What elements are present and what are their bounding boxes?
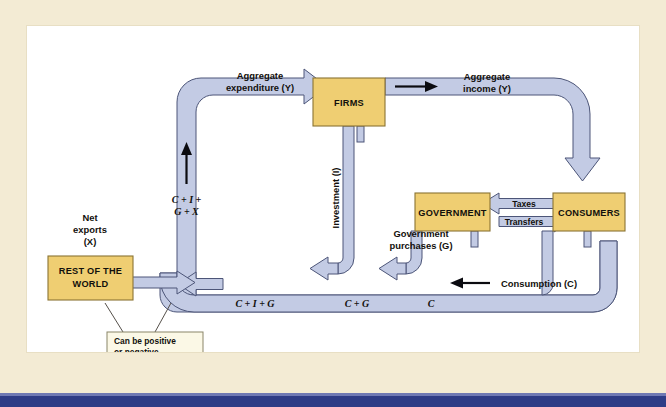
aggregate-income-label-line1: Aggregate <box>464 71 510 82</box>
callout-leader-right <box>155 303 171 332</box>
aggregate-expenditure-label-line1: Aggregate <box>237 70 283 81</box>
c-i-g-x-label-line2: G + X <box>174 206 199 217</box>
government-purchases-label-line2: purchases (G) <box>389 240 452 251</box>
rest-of-world-label-line1: REST OF THE <box>59 266 123 276</box>
firms-label: FIRMS <box>334 98 364 108</box>
government-purchases-arrowhead <box>379 257 406 280</box>
figure-page: FIRMS GOVERNMENT CONSUMERS REST OF THE W… <box>0 0 666 407</box>
firms-stem <box>357 126 364 142</box>
aggregate-income-label-line2: income (Y) <box>463 83 511 94</box>
rest-of-world-label-line2: WORLD <box>73 279 109 289</box>
investment-label: Investment (I) <box>330 168 341 229</box>
node-rest-of-world[interactable]: REST OF THE WORLD <box>48 256 133 300</box>
node-government[interactable]: GOVERNMENT <box>415 193 490 231</box>
bottom-accent-bar <box>0 396 666 407</box>
consumers-label: CONSUMERS <box>558 208 620 218</box>
government-purchases-label-line1: Government <box>393 228 448 239</box>
consumption-label: Consumption (C) <box>501 278 577 289</box>
transfers-label: Transfers <box>505 217 544 227</box>
c-g-label: C + G <box>345 298 370 309</box>
c-label: C <box>428 298 435 309</box>
aggregate-expenditure-label-line2: expenditure (Y) <box>226 82 294 93</box>
callout-line2: or negative <box>114 347 159 352</box>
circular-flow-diagram: FIRMS GOVERNMENT CONSUMERS REST OF THE W… <box>27 26 639 352</box>
taxes-label: Taxes <box>512 199 536 209</box>
consumers-stem <box>584 231 591 247</box>
investment-arrowhead <box>310 257 338 280</box>
government-label: GOVERNMENT <box>418 208 486 218</box>
node-consumers[interactable]: CONSUMERS <box>553 193 625 231</box>
net-exports-label-line3: (X) <box>84 236 97 247</box>
c-i-g-x-label-line1: C + I + <box>172 194 202 205</box>
callout-leader-left <box>105 303 123 332</box>
net-exports-label-line2: exports <box>73 224 107 235</box>
callout-line1: Can be positive <box>114 336 176 346</box>
aggregate-expenditure-band <box>177 69 327 297</box>
diagram-canvas: FIRMS GOVERNMENT CONSUMERS REST OF THE W… <box>27 26 639 352</box>
callout-net-exports-note: Can be positive or negative <box>107 332 203 352</box>
c-i-g-label: C + I + G <box>235 298 275 309</box>
node-firms[interactable]: FIRMS <box>313 78 385 126</box>
net-exports-label-line1: Net <box>82 212 97 223</box>
government-stem <box>471 231 478 247</box>
consumption-direction-arrow <box>450 278 490 289</box>
